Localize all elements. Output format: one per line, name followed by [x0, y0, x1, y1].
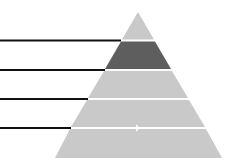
- pyramid-level-2: [105, 42, 171, 70]
- pyramid-level-5: [55, 129, 222, 158]
- pyramid-level-1: [122, 12, 154, 40]
- pyramid-level-3: [88, 71, 188, 98]
- pyramid-diagram: [0, 0, 236, 167]
- pyramid: [55, 12, 222, 158]
- pyramid-level-4: [71, 100, 205, 127]
